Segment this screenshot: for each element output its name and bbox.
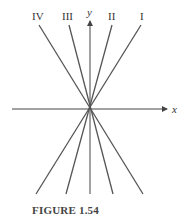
figure-caption: FIGURE 1.54 (32, 204, 99, 216)
x-axis-label: x (171, 103, 177, 115)
figure-canvas: x y IV III II I (0, 0, 187, 223)
line-label-i: I (140, 10, 144, 22)
y-axis-label: y (86, 6, 92, 18)
line-label-iv: IV (32, 10, 44, 22)
line-label-iii: III (62, 10, 73, 22)
line-label-ii: II (108, 10, 116, 22)
